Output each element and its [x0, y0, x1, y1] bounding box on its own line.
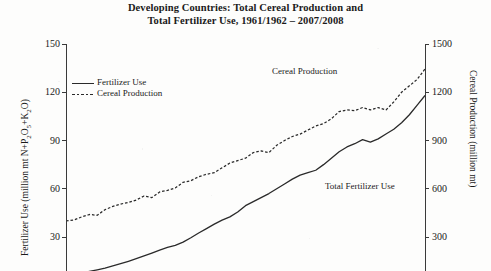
left-axis-line — [66, 44, 67, 271]
annotation-total-fertilizer-use: Total Fertilizer Use — [325, 181, 395, 191]
legend-swatch-solid-icon — [72, 80, 94, 86]
left-axis-tick-label: 120 — [26, 87, 60, 97]
left-axis-tick-label: 150 — [26, 39, 60, 49]
left-axis-tick — [62, 140, 66, 141]
right-axis-tick — [425, 140, 429, 141]
legend-swatch-dashed-icon — [72, 91, 94, 97]
right-axis-tick — [425, 44, 429, 45]
legend-item-fertilizer-use: Fertilizer Use — [72, 77, 162, 88]
plot-area — [0, 0, 491, 271]
chart-legend: Fertilizer Use Cereal Production — [72, 77, 162, 99]
left-axis-tick-label: 90 — [26, 136, 60, 146]
right-axis-tick-label: 600 — [432, 184, 447, 194]
right-axis-tick — [425, 92, 429, 93]
left-axis-tick-label: 60 — [26, 184, 60, 194]
legend-label-cereal-production: Cereal Production — [97, 88, 162, 99]
chart-figure: Developing Countries: Total Cereal Produ… — [0, 0, 491, 271]
legend-label-fertilizer-use: Fertilizer Use — [97, 77, 146, 88]
legend-item-cereal-production: Cereal Production — [72, 88, 162, 99]
left-axis-tick-label: 30 — [26, 232, 60, 242]
annotation-cereal-production: Cereal Production — [272, 66, 337, 76]
left-axis-tick — [62, 92, 66, 93]
right-axis-tick — [425, 237, 429, 238]
right-axis-tick-label: 1200 — [432, 87, 452, 97]
right-axis-tick-label: 300 — [432, 232, 447, 242]
left-axis-tick — [62, 44, 66, 45]
left-axis-tick — [62, 188, 66, 189]
right-axis-tick-label: 1500 — [432, 39, 452, 49]
right-axis-tick — [425, 188, 429, 189]
left-axis-tick — [62, 237, 66, 238]
right-axis-tick-label: 900 — [432, 136, 447, 146]
right-axis-title: Cereal Production (million mt) — [468, 70, 478, 187]
